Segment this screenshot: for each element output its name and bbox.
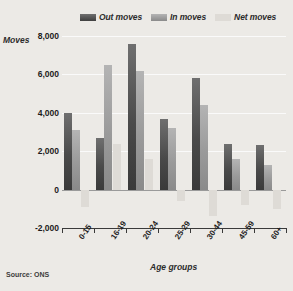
bar-out-moves xyxy=(256,145,264,189)
bar-in-moves xyxy=(168,128,176,189)
y-axis-tick-labels: 8,0006,0004,0002,0000-2,000 xyxy=(0,36,59,228)
legend-label-in-moves: In moves xyxy=(170,12,206,22)
x-axis-title: Age groups xyxy=(150,262,197,272)
legend-item-out-moves: Out moves xyxy=(80,12,142,22)
bar-net-moves xyxy=(177,190,185,202)
bar-out-moves xyxy=(96,138,104,190)
chart-legend: Out moves In moves Net moves xyxy=(80,10,288,24)
y-axis-tick-label: -2,000 xyxy=(35,223,59,233)
gridline xyxy=(62,36,286,37)
bar-in-moves xyxy=(72,130,80,190)
source-note: Source: ONS xyxy=(6,271,49,278)
bar-net-moves xyxy=(145,159,153,190)
bar-in-moves xyxy=(264,165,272,190)
bar-net-moves xyxy=(209,190,217,217)
x-axis-tick xyxy=(254,228,255,233)
x-axis-tick xyxy=(94,228,95,233)
x-axis-tick xyxy=(158,228,159,233)
bar-net-moves xyxy=(81,190,89,207)
chart-figure: Out moves In moves Net moves Moves 8,000… xyxy=(0,0,293,291)
legend-item-net-moves: Net moves xyxy=(215,12,276,22)
x-axis-tick xyxy=(286,228,287,233)
gridline xyxy=(62,113,286,114)
bar-net-moves xyxy=(241,190,249,205)
legend-swatch-out-moves xyxy=(80,14,96,21)
y-axis-tick-label: 4,000 xyxy=(38,108,59,118)
y-axis-tick-label: 2,000 xyxy=(38,146,59,156)
y-axis-tick-label: 6,000 xyxy=(38,69,59,79)
plot-area xyxy=(62,36,286,228)
legend-swatch-in-moves xyxy=(151,14,167,21)
bar-out-moves xyxy=(128,44,136,190)
bar-in-moves xyxy=(104,65,112,190)
x-axis-tick xyxy=(62,228,63,233)
y-axis-tick-label: 0 xyxy=(54,185,59,195)
legend-label-out-moves: Out moves xyxy=(99,12,142,22)
bar-out-moves xyxy=(192,78,200,189)
gridline xyxy=(62,74,286,75)
bar-net-moves xyxy=(113,144,121,190)
x-axis-tick xyxy=(126,228,127,233)
bar-in-moves xyxy=(136,71,144,190)
legend-swatch-net-moves xyxy=(215,14,231,21)
x-axis-tick xyxy=(190,228,191,233)
bar-out-moves xyxy=(224,144,232,190)
legend-item-in-moves: In moves xyxy=(151,12,206,22)
y-axis-tick-label: 8,000 xyxy=(38,31,59,41)
x-axis-tick xyxy=(222,228,223,233)
zero-line xyxy=(62,190,286,191)
bar-in-moves xyxy=(200,105,208,189)
bar-in-moves xyxy=(232,159,240,190)
bar-out-moves xyxy=(64,113,72,190)
bar-out-moves xyxy=(160,119,168,190)
legend-label-net-moves: Net moves xyxy=(234,12,276,22)
bar-net-moves xyxy=(273,190,281,209)
